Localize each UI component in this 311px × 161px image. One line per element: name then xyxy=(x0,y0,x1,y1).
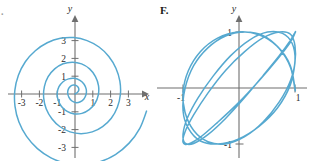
y-axis-label: y xyxy=(67,3,73,14)
panel-right-lissajous: F. -1 1 1 -1 y xyxy=(155,0,311,161)
panel-left-spiral: . -3 -2 -1 1 2 xyxy=(0,0,155,161)
panel-left-label: . xyxy=(1,6,4,17)
x-tick-label-3: 3 xyxy=(126,98,131,108)
x-tick-label--3: -3 xyxy=(18,98,26,108)
y-axis-arrow-icon xyxy=(72,15,79,22)
x-axis-label: x xyxy=(144,91,150,102)
x-tick-label--2: -2 xyxy=(35,98,43,108)
y-axis-arrow-icon xyxy=(236,15,243,22)
y-tick-label--1: -1 xyxy=(58,107,66,117)
x-tick-label-2: 2 xyxy=(108,98,113,108)
left-spiral-plot: -3 -2 -1 1 2 3 3 2 1 -1 -2 -3 x y xyxy=(0,0,155,161)
y-tick-label--3: -3 xyxy=(58,143,66,153)
x-tick-label-1: 1 xyxy=(296,93,301,103)
figure-page: . -3 -2 -1 1 2 xyxy=(0,0,311,161)
y-axis-label: y xyxy=(231,3,237,14)
panel-right-label: F. xyxy=(160,4,168,16)
right-lissajous-plot: -1 1 1 -1 y xyxy=(155,0,311,161)
